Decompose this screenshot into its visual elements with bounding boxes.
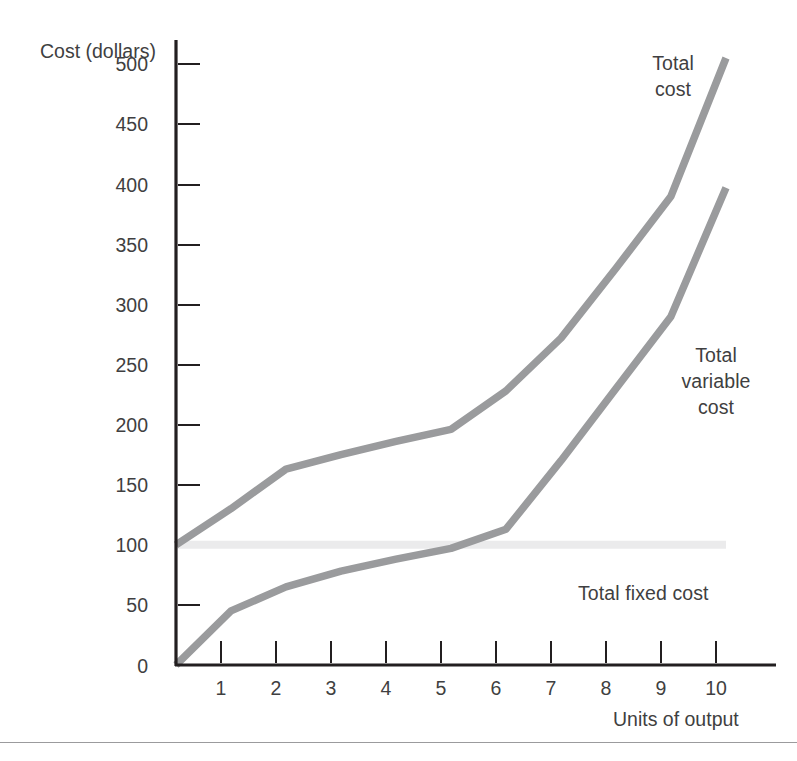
total-cost-label: Total cost [628,50,718,102]
y-tick-label-350: 350 [88,234,148,257]
total-fixed-cost-label: Total fixed cost [578,580,709,606]
y-tick-label-450: 450 [88,113,148,136]
x-tick-label-6: 6 [476,677,516,700]
y-tick-label-50: 50 [88,594,148,617]
cost-curves-figure: Cost (dollars) 500 450 400 350 300 250 2… [0,0,797,761]
x-axis-ticks [221,641,716,663]
x-tick-label-10: 10 [696,677,736,700]
total-cost-curve [176,58,726,545]
y-axis-ticks [178,64,200,605]
y-tick-label-150: 150 [88,474,148,497]
x-tick-label-8: 8 [586,677,626,700]
y-tick-label-200: 200 [88,414,148,437]
bottom-divider [0,742,797,743]
x-tick-label-7: 7 [531,677,571,700]
y-tick-label-250: 250 [88,354,148,377]
y-tick-label-300: 300 [88,294,148,317]
x-tick-label-1: 1 [201,677,241,700]
y-tick-label-500: 500 [88,53,148,76]
x-tick-label-2: 2 [256,677,296,700]
x-tick-label-5: 5 [421,677,461,700]
total-variable-cost-label: Total variable cost [666,342,766,420]
y-tick-label-100: 100 [88,534,148,557]
x-tick-label-4: 4 [366,677,406,700]
x-tick-label-9: 9 [641,677,681,700]
x-tick-label-3: 3 [311,677,351,700]
y-tick-label-400: 400 [88,174,148,197]
y-tick-label-0: 0 [88,655,148,678]
x-axis-title: Units of output [613,708,739,731]
